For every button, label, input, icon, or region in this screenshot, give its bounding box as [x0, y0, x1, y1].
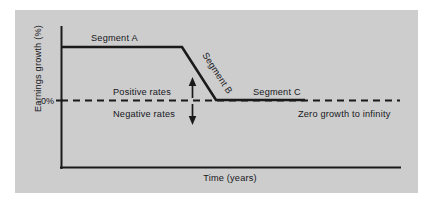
negative-rates-label: Negative rates — [113, 109, 175, 119]
up-arrow-icon — [189, 77, 197, 98]
earnings-growth-chart: Earnings growth (%) 0% Time (years) Segm… — [0, 0, 433, 206]
segment-a-label: Segment A — [91, 33, 138, 43]
segment-c-label: Segment C — [253, 87, 301, 97]
x-axis-title: Time (years) — [203, 173, 257, 183]
down-arrow-icon — [189, 104, 197, 125]
segment-b-label: Segment B — [200, 51, 234, 96]
y-tick-label-zero: 0% — [41, 96, 54, 106]
positive-rates-label: Positive rates — [113, 87, 171, 97]
zero-growth-infinity-label: Zero growth to infinity — [298, 109, 391, 119]
